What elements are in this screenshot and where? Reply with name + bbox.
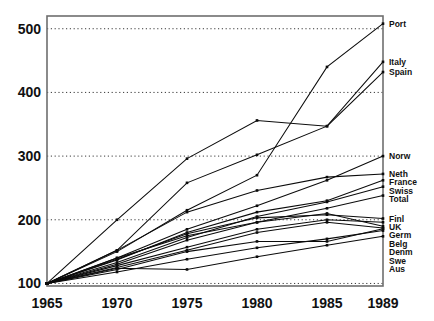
data-point-marker [256,255,259,258]
series-label: Port [389,19,406,29]
data-point-marker [186,268,189,271]
data-point-marker [326,176,329,179]
y-tick-label: 400 [18,84,42,100]
data-point-marker [256,204,259,207]
data-point-marker [326,179,329,182]
x-tick-label: 1989 [367,295,398,311]
data-point-marker [382,185,385,188]
data-point-marker [116,267,119,270]
data-point-marker [116,271,119,274]
data-point-marker [326,125,329,128]
data-point-marker [116,257,119,260]
data-point-marker [256,231,259,234]
data-point-marker [256,221,259,224]
data-point-marker [326,238,329,241]
y-tick-label: 200 [18,212,42,228]
data-point-marker [256,211,259,214]
data-point-marker [256,246,259,249]
data-point-marker [256,217,259,220]
data-point-marker [382,173,385,176]
data-point-marker [326,240,329,243]
data-point-marker [186,228,189,231]
series-label: Italy [389,57,406,67]
data-point-marker [256,189,259,192]
data-point-marker [116,218,119,221]
data-point-marker [46,282,49,285]
data-point-marker [326,221,329,224]
data-point-marker [382,221,385,224]
x-tick-label: 1975 [171,295,202,311]
data-point-marker [116,249,119,252]
x-tick-label: 1980 [241,295,272,311]
data-point-marker [382,71,385,74]
data-point-marker [186,157,189,160]
y-tick-label: 300 [18,148,42,164]
x-tick-label: 1965 [31,295,62,311]
data-point-marker [186,250,189,253]
series-label: Spain [389,67,412,77]
chart-canvas: PortItalySpainNorwNethFranceSwissTotalFi… [0,0,434,321]
series-label: Norw [389,151,411,161]
data-point-marker [186,239,189,242]
series-label: Total [389,194,409,204]
data-point-marker [256,228,259,231]
line-chart: PortItalySpainNorwNethFranceSwissTotalFi… [0,0,434,321]
data-point-marker [326,244,329,247]
data-point-marker [382,194,385,197]
data-point-marker [326,212,329,215]
data-point-marker [256,240,259,243]
x-tick-label: 1985 [311,295,342,311]
data-point-marker [256,174,259,177]
data-point-marker [382,229,385,232]
data-point-marker [382,179,385,182]
data-point-marker [186,182,189,185]
data-point-marker [256,154,259,157]
data-point-marker [186,211,189,214]
data-point-marker [256,119,259,122]
data-point-marker [382,217,385,220]
y-tick-label: 100 [18,275,42,291]
data-point-marker [382,61,385,64]
data-point-marker [382,155,385,158]
data-point-marker [326,207,329,210]
data-point-marker [186,246,189,249]
series-label: Aus [389,264,405,274]
data-point-marker [326,218,329,221]
data-point-marker [382,235,385,238]
data-point-marker [186,234,189,237]
y-tick-label: 500 [18,21,42,37]
data-point-marker [186,258,189,261]
data-point-marker [326,66,329,69]
chart-background [0,0,434,321]
data-point-marker [382,22,385,25]
x-tick-label: 1970 [101,295,132,311]
data-point-marker [326,201,329,204]
